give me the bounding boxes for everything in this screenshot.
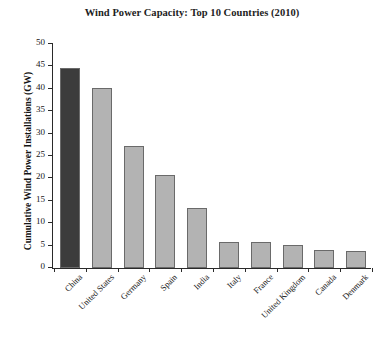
y-tick-label: 25 <box>36 149 45 159</box>
x-tick <box>54 268 55 272</box>
bar <box>187 208 207 268</box>
y-tick: 50 <box>48 43 52 44</box>
x-tick-label: Canada <box>313 272 338 297</box>
y-tick: 5 <box>48 245 52 246</box>
x-tick <box>340 268 341 272</box>
x-tick <box>181 268 182 272</box>
y-tick-label: 50 <box>36 37 45 47</box>
y-axis-title: Cumulative Wind Power Installations (GW) <box>23 41 33 281</box>
y-tick-label: 40 <box>36 82 45 92</box>
x-tick <box>372 268 373 272</box>
x-tick <box>245 268 246 272</box>
y-tick: 30 <box>48 133 52 134</box>
x-tick-label: China <box>62 272 84 294</box>
y-tick-label: 5 <box>41 239 46 249</box>
y-tick-label: 35 <box>36 104 45 114</box>
y-tick-label: 15 <box>36 194 45 204</box>
x-tick <box>213 268 214 272</box>
x-tick-label: India <box>192 272 212 292</box>
x-tick-label: Italy <box>225 272 243 290</box>
x-tick-label: Germany <box>118 272 148 302</box>
x-tick <box>277 268 278 272</box>
y-tick: 0 <box>48 267 52 268</box>
y-axis-line <box>52 43 53 269</box>
x-tick <box>118 268 119 272</box>
bar <box>346 251 366 268</box>
y-tick: 45 <box>48 65 52 66</box>
y-tick: 10 <box>48 222 52 223</box>
x-tick <box>308 268 309 272</box>
y-tick-label: 30 <box>36 127 45 137</box>
plot-area: 05101520253035404550 ChinaUnited StatesG… <box>52 44 370 268</box>
bar <box>251 242 271 268</box>
y-tick: 25 <box>48 155 52 156</box>
bar <box>60 68 80 268</box>
y-tick-label: 10 <box>36 216 45 226</box>
bar <box>92 88 112 268</box>
x-tick <box>149 268 150 272</box>
x-tick-label: Spain <box>158 272 179 293</box>
x-axis-line <box>52 268 371 269</box>
chart-title: Wind Power Capacity: Top 10 Countries (2… <box>0 7 384 18</box>
y-tick-label: 45 <box>36 59 45 69</box>
bar <box>283 245 303 268</box>
bar <box>314 250 334 268</box>
x-tick-label: France <box>251 272 275 296</box>
bar <box>219 242 239 268</box>
y-tick: 15 <box>48 200 52 201</box>
y-tick: 35 <box>48 110 52 111</box>
x-tick <box>86 268 87 272</box>
y-tick-label: 20 <box>36 171 45 181</box>
bar <box>124 146 144 268</box>
y-tick: 20 <box>48 177 52 178</box>
bar-chart: Wind Power Capacity: Top 10 Countries (2… <box>0 0 384 344</box>
bar <box>155 175 175 268</box>
x-tick-label: Denmark <box>340 272 370 302</box>
y-tick-label: 0 <box>41 261 46 271</box>
y-tick: 40 <box>48 88 52 89</box>
